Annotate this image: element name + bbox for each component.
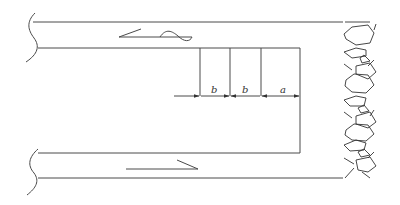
dimension-label-a: a — [280, 85, 286, 95]
roadway-plan-diagram — [0, 0, 400, 205]
dimension-label-b-1: b — [211, 85, 217, 95]
break-line-top — [26, 13, 37, 62]
gob-rubble — [344, 22, 376, 178]
intake-flow-arrow — [119, 29, 192, 41]
break-line-bottom — [27, 149, 38, 195]
return-flow-arrow — [126, 160, 198, 169]
dimension-label-b-2: b — [242, 85, 248, 95]
